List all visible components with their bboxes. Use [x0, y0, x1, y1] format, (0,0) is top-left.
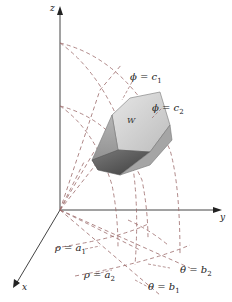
theta-b2-text: θ = b: [180, 264, 207, 275]
x-axis: [16, 210, 60, 284]
z-axis-label: z: [50, 4, 55, 13]
rho-a2-label: ρ = a2: [84, 270, 115, 283]
theta-b1-label: θ = b1: [148, 282, 180, 295]
rho-a2-text: ρ = a: [84, 269, 111, 280]
theta-b1-sub: 1: [175, 287, 179, 295]
phi-c2-text: ϕ = c: [152, 102, 179, 113]
z-arrow-icon: [57, 6, 63, 15]
phi-c2-label: ϕ = c2: [152, 103, 184, 116]
rho-a1-text: ρ = a: [55, 242, 82, 253]
phi-c2-sub: 2: [179, 108, 183, 116]
phi-c1-sub: 1: [157, 77, 161, 85]
x-axis-label: x: [22, 283, 27, 292]
region-W-label: W: [127, 117, 135, 125]
diagram-canvas: [0, 0, 232, 302]
rho-a1-sub: 1: [82, 248, 86, 256]
spherical-coordinates-figure: z y x W ϕ = c1 ϕ = c2 ρ = a1 ρ = a2 θ = …: [0, 0, 232, 302]
theta-b2-sub: 2: [207, 270, 211, 278]
theta-b2-label: θ = b2: [180, 265, 212, 278]
phi-c1-text: ϕ = c: [130, 71, 157, 82]
rho-a1-label: ρ = a1: [55, 243, 86, 256]
theta-b1-text: θ = b: [148, 281, 175, 292]
rho-a2-sub: 2: [111, 275, 115, 283]
x-arrow-icon: [13, 279, 20, 288]
y-axis-label: y: [220, 213, 225, 222]
phi-c1-label: ϕ = c1: [130, 72, 162, 85]
